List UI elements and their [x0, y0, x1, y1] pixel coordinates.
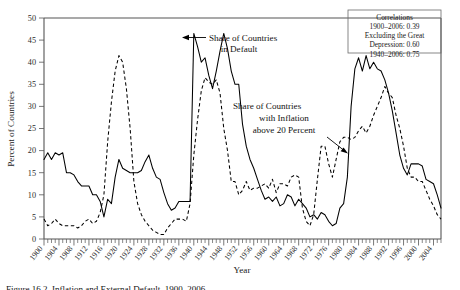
- x-tick-label-1936: 1936: [162, 244, 179, 262]
- y-tick-label-50: 50: [28, 14, 36, 23]
- x-tick-label-1968: 1968: [282, 244, 299, 262]
- correlations-line-1: 1900–2006: 0.39: [369, 22, 419, 31]
- annotation-inflation: Share of Countries with Inflation above …: [233, 101, 348, 154]
- figure-caption: Figure 16.2. Inflation and External Defa…: [6, 284, 446, 290]
- x-tick-label-1932: 1932: [147, 244, 164, 262]
- correlations-box: Correlations 1900–2006: 0.39 Excluding t…: [348, 10, 441, 59]
- series-line-default: [44, 33, 441, 225]
- y-tick-label-30: 30: [28, 102, 36, 111]
- x-tick-label-1912: 1912: [73, 244, 90, 262]
- x-tick-label-1972: 1972: [297, 244, 314, 262]
- x-tick-label-2004: 2004: [417, 244, 434, 262]
- x-tick-label-1940: 1940: [177, 244, 194, 262]
- y-tick-label-40: 40: [28, 58, 36, 67]
- correlations-title: Correlations: [376, 13, 413, 22]
- x-tick-label-1964: 1964: [267, 244, 284, 262]
- x-tick-label-1928: 1928: [133, 244, 150, 262]
- y-tick-label-25: 25: [28, 124, 36, 133]
- correlations-line-3: Depression: 0.60: [369, 40, 419, 49]
- x-tick-label-1920: 1920: [103, 244, 120, 262]
- x-tick-label-1924: 1924: [118, 244, 135, 262]
- annotation-inflation-line2: with Inflation: [259, 113, 309, 123]
- series-line-inflation: [44, 56, 441, 235]
- chart-svg: 0 5 10 15 20 25 30 35 40 45 50 Percent o…: [0, 0, 460, 290]
- x-tick-label-1952: 1952: [222, 244, 239, 262]
- y-tick-label-45: 45: [28, 36, 36, 45]
- correlations-line-4: 1940–2006: 0.75: [369, 50, 419, 59]
- x-axis-ticks: 1900190419081912191619201924192819321936…: [28, 239, 441, 262]
- data-series-group: [44, 33, 441, 234]
- x-tick-label-1944: 1944: [192, 244, 209, 262]
- annotation-default-line2: in Default: [221, 44, 258, 54]
- y-tick-label-20: 20: [28, 146, 36, 155]
- x-tick-label-1904: 1904: [43, 244, 60, 262]
- correlations-line-2: Excluding the Great: [365, 31, 425, 40]
- x-tick-label-1980: 1980: [327, 244, 344, 262]
- y-axis-title: Percent of Countries: [6, 91, 16, 167]
- x-tick-label-1948: 1948: [207, 244, 224, 262]
- annotation-default-line1: Share of Countries: [209, 33, 278, 43]
- x-tick-label-1988: 1988: [357, 244, 374, 262]
- x-tick-label-1984: 1984: [342, 244, 359, 262]
- arrow-head-default: [182, 35, 189, 40]
- x-tick-label-1992: 1992: [372, 244, 389, 262]
- y-tick-label-0: 0: [32, 235, 36, 244]
- figure-container: 0 5 10 15 20 25 30 35 40 45 50 Percent o…: [0, 0, 460, 290]
- y-tick-label-15: 15: [28, 169, 36, 178]
- x-tick-label-1976: 1976: [312, 244, 329, 262]
- x-tick-label-1916: 1916: [88, 244, 105, 262]
- x-tick-label-1956: 1956: [237, 244, 254, 262]
- annotation-inflation-line1: Share of Countries: [233, 101, 302, 111]
- y-tick-label-10: 10: [28, 191, 36, 200]
- y-tick-label-5: 5: [32, 213, 36, 222]
- x-axis-title: Year: [234, 265, 251, 275]
- annotation-inflation-line3: above 20 Percent: [253, 125, 316, 135]
- y-tick-label-35: 35: [28, 80, 36, 89]
- y-axis-ticks: 0 5 10 15 20 25 30 35 40 45 50: [28, 14, 44, 244]
- x-tick-label-2000: 2000: [402, 244, 419, 262]
- x-tick-label-1908: 1908: [58, 244, 75, 262]
- x-tick-label-1900: 1900: [28, 244, 45, 262]
- x-tick-label-1996: 1996: [387, 244, 404, 262]
- x-tick-label-1960: 1960: [252, 244, 269, 262]
